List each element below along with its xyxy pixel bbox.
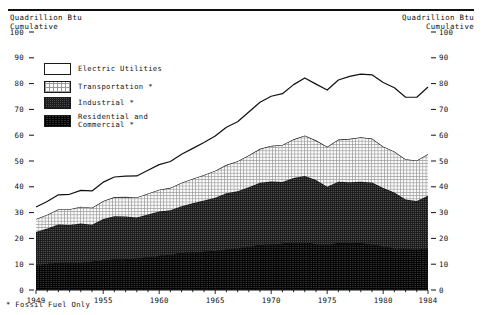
y-tick-label-left: 40 <box>0 182 24 191</box>
y-tick-label-right: 70 <box>439 105 467 114</box>
y-tick-label-right: 10 <box>439 260 467 269</box>
y-tick-label-left: 60 <box>0 131 24 140</box>
y-tick-label-left: 90 <box>0 53 24 62</box>
x-tick-label: 1970 <box>251 296 291 305</box>
x-tick-label: 1984 <box>408 296 448 305</box>
y-tick-label-left: 0 <box>0 286 24 295</box>
x-tick-label: 1955 <box>83 296 123 305</box>
legend-swatch-industrial-icon <box>44 97 71 109</box>
legend-item-transport: Transportation * <box>44 81 153 93</box>
y-tick-label-right: 0 <box>439 286 467 295</box>
y-tick-label-right: 50 <box>439 157 467 166</box>
y-tick-label-left: 10 <box>0 260 24 269</box>
y-tick-label-right: 80 <box>439 79 467 88</box>
y-tick-label-left: 100 <box>0 28 24 37</box>
legend-label: Industrial * <box>78 99 134 107</box>
legend-swatch-electric-icon <box>44 63 71 75</box>
x-tick-label: 1960 <box>139 296 179 305</box>
y-tick-label-left: 70 <box>0 105 24 114</box>
y-tick-label-right: 40 <box>439 182 467 191</box>
y-tick-label-right: 60 <box>439 131 467 140</box>
legend-label: Electric Utilities <box>78 65 162 73</box>
x-tick-label: 1949 <box>16 296 56 305</box>
legend-swatch-residential-icon <box>44 115 71 127</box>
legend-swatch-transport-icon <box>44 81 71 93</box>
y-tick-label-left: 30 <box>0 208 24 217</box>
legend-item-industrial: Industrial * <box>44 97 134 109</box>
legend-label: Residential and Commercial * <box>78 113 148 130</box>
energy-consumption-area-chart: Quadrillion BtuCumulative Quadrillion Bt… <box>0 0 482 315</box>
x-tick-label: 1975 <box>307 296 347 305</box>
x-tick-label: 1980 <box>363 296 403 305</box>
legend-label: Transportation * <box>78 83 153 91</box>
y-tick-label-left: 50 <box>0 157 24 166</box>
plot-area <box>0 0 482 315</box>
x-tick-label: 1965 <box>195 296 235 305</box>
y-tick-label-right: 20 <box>439 234 467 243</box>
y-tick-label-left: 80 <box>0 79 24 88</box>
y-tick-label-right: 30 <box>439 208 467 217</box>
y-tick-label-right: 100 <box>439 28 467 37</box>
y-tick-label-right: 90 <box>439 53 467 62</box>
legend-item-electric: Electric Utilities <box>44 63 162 75</box>
legend-item-residential: Residential and Commercial * <box>44 113 148 130</box>
y-tick-label-left: 20 <box>0 234 24 243</box>
